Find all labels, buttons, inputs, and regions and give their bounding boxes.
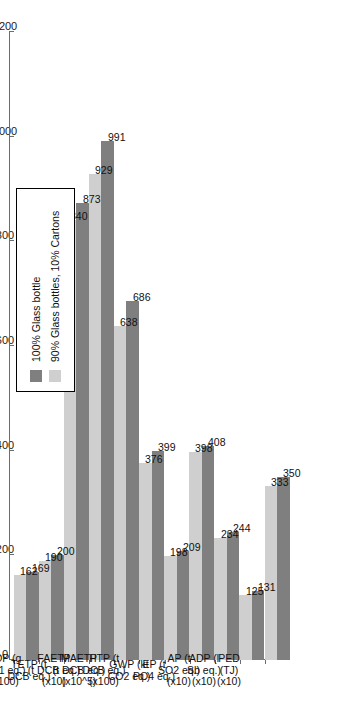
bar <box>202 446 215 660</box>
bar <box>139 463 152 660</box>
bar-value-label: 333 <box>271 476 289 488</box>
bar-value-label: 198 <box>170 546 188 558</box>
bar-value-label: 234 <box>221 528 239 540</box>
legend-label: 100% Glass bottle <box>30 277 42 362</box>
bar <box>89 174 102 660</box>
bar-value-label: 929 <box>95 164 113 176</box>
bar-value-label: 398 <box>195 442 213 454</box>
legend-swatch-icon <box>49 370 61 382</box>
axis-tick-label: 1200 <box>0 20 17 32</box>
chart-legend: 100% Glass bottle 90% Glass bottles, 10%… <box>16 188 75 392</box>
category-label: POCP(t C2H4eq.) <box>0 653 27 688</box>
bar-value-label: 125 <box>246 585 264 597</box>
axis-tick-label: 600 <box>0 334 14 346</box>
bar <box>177 551 190 660</box>
axis-rule <box>9 32 10 660</box>
bar <box>152 451 165 660</box>
category-label-line: POCP <box>0 653 27 665</box>
bar <box>227 532 240 660</box>
bar-value-label: 399 <box>158 441 176 453</box>
bar <box>126 301 139 660</box>
bar <box>51 555 64 660</box>
bar-value-label: 638 <box>120 316 138 328</box>
legend-swatch-icon <box>30 370 42 382</box>
bar-value-label: 991 <box>108 131 126 143</box>
axis-tick-label: 400 <box>0 439 14 451</box>
bar-value-label: 190 <box>45 551 63 563</box>
bar-chart-figure: 020040060080010001200 350333131125244234… <box>0 0 356 722</box>
bar <box>14 575 27 660</box>
legend-item: 100% Glass bottle <box>30 198 42 382</box>
legend-item: 90% Glass bottles, 10% Cartons <box>49 198 61 382</box>
bar <box>252 591 265 660</box>
bar <box>265 486 278 660</box>
axis-tick-label: 800 <box>0 229 14 241</box>
bar <box>239 595 252 660</box>
bar <box>114 326 127 660</box>
bar <box>26 572 39 660</box>
category-label-line: (t C2H4 <box>0 664 27 676</box>
bar <box>277 477 290 660</box>
bar <box>164 556 177 660</box>
bar <box>39 561 52 660</box>
axis-tick-label: 200 <box>0 543 14 555</box>
bar <box>76 203 89 660</box>
bar-value-label: 873 <box>83 193 101 205</box>
bar-value-label: 686 <box>133 291 151 303</box>
chart-canvas: 020040060080010001200 350333131125244234… <box>0 0 356 722</box>
legend-label: 90% Glass bottles, 10% Cartons <box>49 211 61 362</box>
bar-value-label: 162 <box>20 565 38 577</box>
bar <box>101 141 114 660</box>
bar <box>214 538 227 660</box>
bar-value-label: 376 <box>145 453 163 465</box>
category-label-line: eq.) <box>0 676 27 688</box>
bar <box>189 452 202 660</box>
